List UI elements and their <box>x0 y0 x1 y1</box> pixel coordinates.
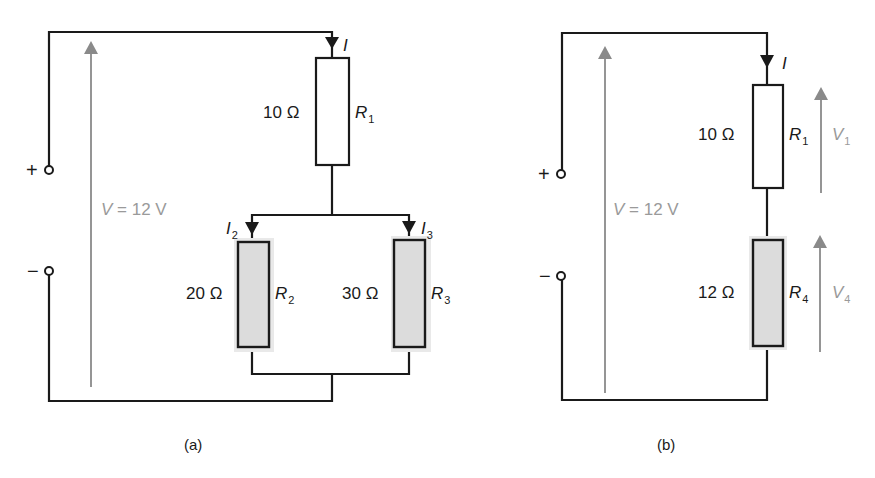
panel-a-current-arrow-i3 <box>402 221 416 234</box>
panel-b-r4-value: 12 Ω <box>698 284 734 301</box>
panel-a-caption: (a) <box>184 437 202 452</box>
panel-a-plus-sign: + <box>26 160 38 180</box>
panel-b-return-wire <box>562 280 767 400</box>
panel-b-v4-arrow-head <box>813 235 827 248</box>
panel-b-voltage-arrow-head <box>598 46 612 59</box>
panel-a-r1-value: 10 Ω <box>263 104 299 121</box>
panel-b-resistor-r4 <box>753 240 783 346</box>
panel-a-r1-name: R1 <box>355 104 374 121</box>
panel-b-caption: (b) <box>657 437 675 452</box>
panel-b-negative-terminal <box>557 272 565 280</box>
panel-a-current-label-i: I <box>343 37 348 54</box>
panel-b-current-label-i: I <box>782 55 787 72</box>
panel-b-v1-label: V1 <box>832 126 850 143</box>
panel-a-i2-label: I2 <box>226 220 238 237</box>
panel-a-resistor-r3 <box>394 240 425 347</box>
panel-b-v1-arrow-head <box>814 87 828 100</box>
circuit-diagrams <box>0 0 875 478</box>
panel-a-r3-value: 30 Ω <box>342 285 378 302</box>
panel-a-r3-name: R3 <box>431 285 450 302</box>
panel-a-voltage-arrow-head <box>84 41 98 54</box>
panel-b-circuit <box>557 33 828 400</box>
panel-a-resistor-r2 <box>238 242 269 347</box>
panel-a-minus-sign: − <box>27 261 39 281</box>
panel-b-voltage-label: V = 12 V <box>613 201 679 218</box>
panel-a-positive-terminal <box>45 166 53 174</box>
panel-a-lower-junction <box>252 347 409 374</box>
panel-a-upper-junction <box>252 215 409 242</box>
panel-a-negative-terminal <box>45 267 53 275</box>
panel-b-r1-value: 10 Ω <box>698 126 734 143</box>
panel-a-r2-value: 20 Ω <box>186 285 222 302</box>
panel-b-top-wire <box>562 33 767 170</box>
panel-a-i3-label: I3 <box>421 220 433 237</box>
panel-b-v4-label: V4 <box>832 284 850 301</box>
panel-b-minus-sign: − <box>539 266 551 286</box>
panel-b-r1-name: R1 <box>789 126 808 143</box>
panel-b-resistor-r1 <box>753 85 783 188</box>
panel-b-current-arrow-i <box>760 55 774 68</box>
panel-a-resistor-r1 <box>316 58 349 165</box>
panel-a-voltage-label: V = 12 V <box>101 201 167 218</box>
panel-a-r2-name: R2 <box>275 285 294 302</box>
panel-b-positive-terminal <box>557 170 565 178</box>
panel-a-current-arrow-i <box>325 37 339 49</box>
panel-a-current-arrow-i2 <box>245 222 259 235</box>
panel-b-plus-sign: + <box>538 164 550 184</box>
panel-b-r4-name: R4 <box>789 284 808 301</box>
